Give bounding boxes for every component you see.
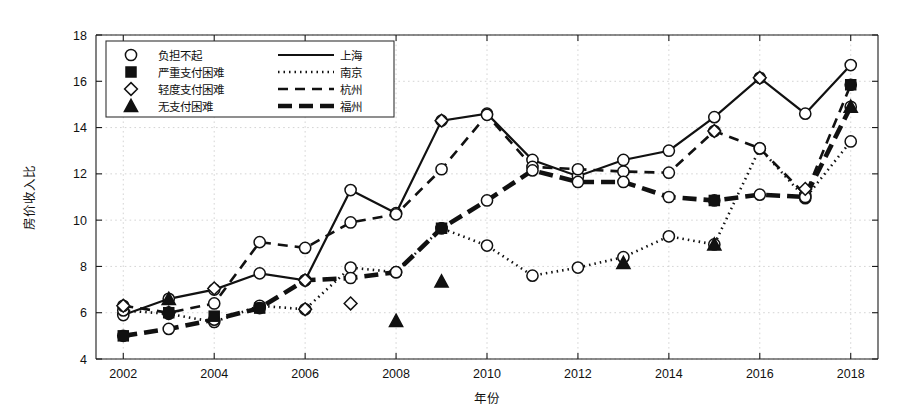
- y-tick-label: 16: [73, 75, 87, 89]
- data-point-3-6: [390, 267, 401, 278]
- data-point-3-12: [663, 191, 674, 202]
- data-point-2-2: [209, 298, 220, 309]
- overlay-marker-11: [164, 308, 174, 318]
- data-point-2-6: [390, 209, 401, 220]
- y-tick-label: 14: [73, 121, 87, 135]
- legend: 负担不起上海严重支付困难南京轻度支付困难杭州无支付困难福州: [106, 41, 394, 117]
- legend-marker-1: [126, 67, 136, 77]
- y-tick-label: 4: [80, 353, 87, 367]
- overlay-marker-13: [255, 303, 265, 313]
- data-point-2-4: [300, 242, 311, 253]
- data-point-1-5: [345, 262, 356, 273]
- x-tick-label: 2012: [564, 367, 592, 381]
- data-point-3-5: [345, 272, 356, 283]
- y-axis-title: 房价收入比: [22, 165, 37, 230]
- chart-figure: 4681012141618200220042006200820102012201…: [0, 0, 908, 413]
- data-point-2-7: [436, 164, 447, 175]
- data-point-2-3: [254, 237, 265, 248]
- data-point-0-12: [663, 145, 674, 156]
- legend-city-label-1: 南京: [340, 66, 362, 80]
- y-tick-label: 6: [80, 306, 87, 320]
- axis-titles: 年份房价收入比: [22, 165, 500, 407]
- overlay-marker-16: [846, 80, 856, 90]
- x-tick-label: 2016: [746, 367, 774, 381]
- overlay-marker-15: [709, 195, 719, 205]
- overlay-marker-14: [437, 223, 447, 233]
- x-tick-label: 2002: [109, 367, 137, 381]
- line-chart-svg: 4681012141618200220042006200820102012201…: [0, 0, 908, 413]
- data-point-2-5: [345, 217, 356, 228]
- data-point-1-16: [845, 136, 856, 147]
- data-point-1-8: [481, 240, 492, 251]
- x-tick-label: 2006: [291, 367, 319, 381]
- data-point-2-14: [754, 143, 765, 154]
- data-point-0-5: [345, 184, 356, 195]
- x-tick-label: 2018: [837, 367, 865, 381]
- legend-city-label-2: 杭州: [340, 83, 362, 97]
- x-tick-label: 2014: [655, 367, 683, 381]
- data-point-2-8: [481, 109, 492, 120]
- overlay-marker-19: [435, 275, 448, 287]
- legend-city-label-3: 福州: [340, 100, 362, 114]
- data-point-0-13: [709, 112, 720, 123]
- x-tick-label: 2004: [200, 367, 228, 381]
- data-point-2-11: [618, 166, 629, 177]
- data-point-0-16: [845, 59, 856, 70]
- data-point-3-10: [572, 176, 583, 187]
- overlay-marker-5: [344, 297, 357, 310]
- legend-marker-0: [125, 49, 136, 60]
- overlay-marker-12: [209, 311, 219, 321]
- data-point-2-10: [572, 164, 583, 175]
- x-axis-title: 年份: [474, 391, 500, 406]
- y-tick-label: 12: [73, 167, 87, 181]
- data-point-3-11: [618, 176, 629, 187]
- data-point-3-8: [481, 195, 492, 206]
- legend-category-label-3: 无支付困难: [158, 100, 213, 114]
- data-point-0-11: [618, 154, 629, 165]
- data-point-0-3: [254, 268, 265, 279]
- x-tick-label: 2008: [382, 367, 410, 381]
- y-tick-label: 10: [73, 214, 87, 228]
- y-tick-label: 18: [73, 29, 87, 43]
- plot-area: 4681012141618200220042006200820102012201…: [0, 0, 908, 413]
- data-point-1-10: [572, 262, 583, 273]
- overlay-marker-18: [389, 314, 402, 326]
- data-point-3-14: [754, 189, 765, 200]
- data-point-2-12: [663, 167, 674, 178]
- y-tick-label: 8: [80, 260, 87, 274]
- overlay-marker-10: [118, 331, 128, 341]
- data-point-3-9: [527, 165, 538, 176]
- data-point-1-12: [663, 231, 674, 242]
- legend-category-label-2: 轻度支付困难: [158, 83, 224, 97]
- legend-city-label-0: 上海: [340, 49, 363, 63]
- x-tick-label: 2010: [473, 367, 501, 381]
- data-point-3-1: [163, 323, 174, 334]
- legend-category-label-1: 严重支付困难: [158, 66, 224, 80]
- data-point-1-9: [527, 270, 538, 281]
- legend-category-label-0: 负担不起: [158, 49, 203, 63]
- data-point-0-15: [800, 108, 811, 119]
